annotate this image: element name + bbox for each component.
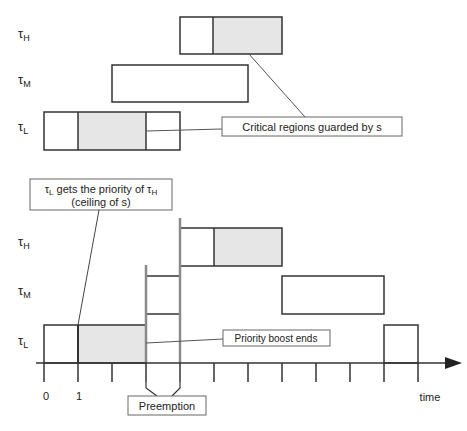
callout-boost-text: Priority boost ends <box>235 333 318 344</box>
callout-leader <box>146 339 223 343</box>
critical-region <box>214 228 282 266</box>
callout-leader <box>172 382 180 396</box>
bottom-job-tau-l <box>44 325 146 363</box>
axis-arrow-icon <box>445 357 462 369</box>
top-job-tau-m <box>112 65 248 102</box>
callout-leader <box>146 382 157 396</box>
top-diagram: τH τM τL Critical regions guarded by s <box>18 17 402 150</box>
callout-critical-text: Critical regions guarded by s <box>242 121 382 133</box>
callout-ceiling-line2: (ceiling of s) <box>71 196 130 208</box>
critical-region <box>213 17 282 54</box>
axis-label-time: time <box>420 391 441 403</box>
row-label-tau-h: τH <box>18 234 30 251</box>
priority-ceiling-diagram: τH τM τL Critical regions guarded by s τ… <box>0 0 467 431</box>
row-label-tau-m: τM <box>18 283 31 300</box>
row-label-tau-h: τH <box>18 26 30 43</box>
row-label-tau-l: τL <box>18 119 28 136</box>
bottom-job-tau-l-resume <box>384 325 418 363</box>
callout-ceiling-line1: τL gets the priority of τH <box>45 183 158 197</box>
row-label-tau-m: τM <box>18 72 31 89</box>
callout-leader <box>249 54 305 117</box>
row-label-tau-l: τL <box>18 333 28 350</box>
bottom-job-tau-h <box>180 228 282 266</box>
bottom-job-tau-m <box>282 276 384 314</box>
critical-region <box>78 325 146 363</box>
callout-preemption-text: Preemption <box>139 400 195 412</box>
tick-label-0: 0 <box>43 390 49 402</box>
tick-label-1: 1 <box>76 390 82 402</box>
callout-leader <box>78 210 99 325</box>
axis-ticks <box>44 363 418 382</box>
top-job-tau-h <box>180 17 282 54</box>
critical-region <box>78 112 146 150</box>
callout-leader <box>146 129 222 131</box>
bottom-diagram: τL gets the priority of τH (ceiling of s… <box>18 179 462 415</box>
